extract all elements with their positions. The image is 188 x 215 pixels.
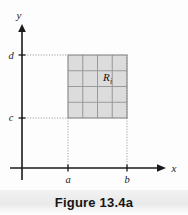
- x-axis-arrow: [157, 164, 166, 172]
- coordinate-plot: y x d c a b R i: [0, 0, 188, 188]
- region-label-subscript: i: [110, 77, 112, 86]
- y-axis-arrow: [18, 24, 26, 32]
- y-tick-label-c: c: [9, 112, 14, 123]
- figure-container: y x d c a b R i Figure 13.4a: [0, 0, 188, 215]
- x-axis-label: x: [171, 162, 177, 174]
- region-label: R: [102, 71, 110, 83]
- y-axis-label: y: [16, 9, 22, 21]
- y-tick-label-d: d: [8, 50, 14, 61]
- x-tick-label-a: a: [65, 174, 70, 185]
- caption-band: Figure 13.4a: [0, 190, 188, 215]
- figure-caption: Figure 13.4a: [55, 195, 133, 210]
- x-tick-label-b: b: [124, 174, 129, 185]
